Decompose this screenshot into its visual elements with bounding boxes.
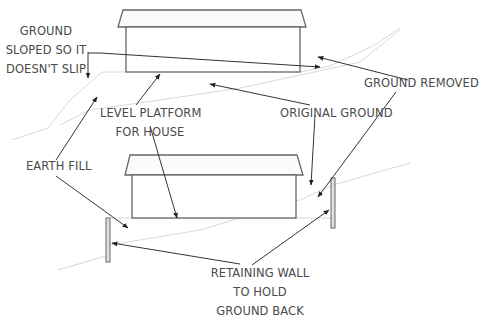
label-line: FOR HOUSE	[100, 123, 200, 142]
label-ground-sloped: GROUND SLOPED SO IT DOESN'T SLIP	[0, 22, 92, 79]
label-line: ORIGINAL GROUND	[280, 104, 393, 123]
label-level-platform: LEVEL PLATFORM FOR HOUSE	[100, 104, 200, 142]
label-retaining-wall: RETAINING WALL TO HOLD GROUND BACK	[205, 264, 315, 321]
label-line: EARTH FILL	[26, 157, 91, 176]
label-line: GROUND	[0, 22, 92, 41]
label-line: TO HOLD	[205, 283, 315, 302]
label-ground-removed: GROUND REMOVED	[364, 74, 479, 93]
house-body-top	[126, 27, 300, 72]
original-ground-arrow-bottom	[311, 115, 315, 185]
label-line: SLOPED SO IT	[0, 41, 92, 60]
house-top	[118, 10, 306, 72]
earth-fill-arrow-bottom	[56, 176, 128, 228]
retaining-wall-left	[106, 218, 110, 262]
label-line: GROUND BACK	[205, 302, 315, 321]
label-line: GROUND REMOVED	[364, 74, 479, 93]
label-line: RETAINING WALL	[205, 264, 315, 283]
label-original-ground: ORIGINAL GROUND	[280, 104, 393, 123]
roof-bottom	[125, 155, 303, 175]
original-ground-arrow-top	[210, 84, 310, 105]
label-earth-fill: EARTH FILL	[26, 157, 91, 176]
retaining-wall-right	[331, 178, 335, 228]
label-line: LEVEL PLATFORM	[100, 104, 200, 123]
label-line: DOESN'T SLIP	[0, 60, 92, 79]
house-body-bottom	[132, 175, 296, 218]
retaining-wall-arrow-left	[112, 243, 240, 264]
roof-top	[118, 10, 306, 27]
earth-fill-arrow-top	[56, 97, 97, 160]
house-bottom	[125, 155, 303, 218]
